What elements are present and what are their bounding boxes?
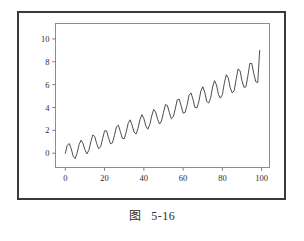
figure-caption-number: 5-16 xyxy=(151,209,175,224)
x-tick-label: 0 xyxy=(63,173,67,183)
x-tick-label: 100 xyxy=(255,173,268,183)
plot-axes-box xyxy=(56,24,270,168)
figure-caption-label: 图 xyxy=(129,206,142,224)
y-tick-label: 0 xyxy=(45,148,49,158)
figure-container: 0246810 020406080100 图5-16 xyxy=(0,0,304,241)
x-tick-label: 40 xyxy=(140,173,149,183)
x-tick-label: 60 xyxy=(179,173,188,183)
x-axis-tick-labels: 020406080100 xyxy=(63,173,268,183)
chart-plot: 0246810 020406080100 xyxy=(19,13,284,198)
x-tick-label: 20 xyxy=(100,173,109,183)
y-tick-label: 2 xyxy=(45,125,49,135)
y-tick-label: 10 xyxy=(41,34,50,44)
figure-outer-frame: 0246810 020406080100 xyxy=(17,11,286,200)
y-axis-tick-labels: 0246810 xyxy=(41,34,50,158)
figure-caption: 图5-16 xyxy=(0,206,304,224)
y-tick-label: 4 xyxy=(45,103,50,113)
x-tick-label: 80 xyxy=(218,173,227,183)
y-tick-label: 6 xyxy=(45,80,49,90)
y-tick-label: 8 xyxy=(45,57,49,67)
